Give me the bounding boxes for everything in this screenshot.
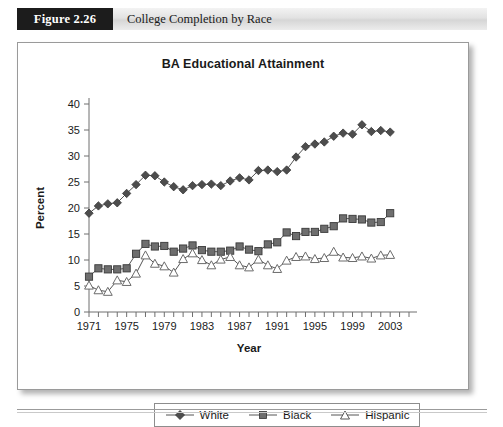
chart-legend: White Black Hispanic xyxy=(154,403,420,427)
plot-area: 0510152025303540Percent19711975197919831… xyxy=(18,43,470,391)
svg-text:30: 30 xyxy=(68,150,80,162)
svg-text:0: 0 xyxy=(74,306,80,318)
svg-text:35: 35 xyxy=(68,124,80,136)
legend-label-hispanic: Hispanic xyxy=(365,409,409,421)
line-chart-svg: 0510152025303540Percent19711975197919831… xyxy=(18,43,470,391)
legend-item-white: White xyxy=(165,409,229,421)
svg-text:10: 10 xyxy=(68,254,80,266)
filled-square-icon xyxy=(248,409,278,421)
svg-text:1979: 1979 xyxy=(152,320,176,332)
figure-number-badge: Figure 2.26 xyxy=(17,8,113,30)
legend-label-black: Black xyxy=(283,409,311,421)
figure-caption-title: College Completion by Race xyxy=(113,8,487,30)
svg-text:1975: 1975 xyxy=(114,320,138,332)
legend-label-white: White xyxy=(200,409,229,421)
svg-text:15: 15 xyxy=(68,228,80,240)
svg-text:1971: 1971 xyxy=(77,320,101,332)
svg-text:1995: 1995 xyxy=(303,320,327,332)
svg-text:Year: Year xyxy=(237,342,262,354)
legend-item-black: Black xyxy=(248,409,311,421)
svg-text:Percent: Percent xyxy=(34,187,46,229)
open-triangle-icon xyxy=(330,409,360,421)
svg-text:1987: 1987 xyxy=(227,320,251,332)
svg-text:25: 25 xyxy=(68,176,80,188)
legend-item-hispanic: Hispanic xyxy=(330,409,409,421)
svg-text:20: 20 xyxy=(68,202,80,214)
footer-rule-bottom xyxy=(17,412,487,413)
svg-text:1983: 1983 xyxy=(190,320,214,332)
svg-text:2003: 2003 xyxy=(378,320,402,332)
chart-panel: BA Educational Attainment 05101520253035… xyxy=(17,42,469,390)
footer-rule-top xyxy=(17,409,487,410)
svg-text:40: 40 xyxy=(68,98,80,110)
filled-diamond-icon xyxy=(165,409,195,421)
svg-text:5: 5 xyxy=(74,280,80,292)
svg-text:1999: 1999 xyxy=(340,320,364,332)
figure-caption-bar: Figure 2.26 College Completion by Race xyxy=(17,8,487,30)
svg-text:1991: 1991 xyxy=(265,320,289,332)
